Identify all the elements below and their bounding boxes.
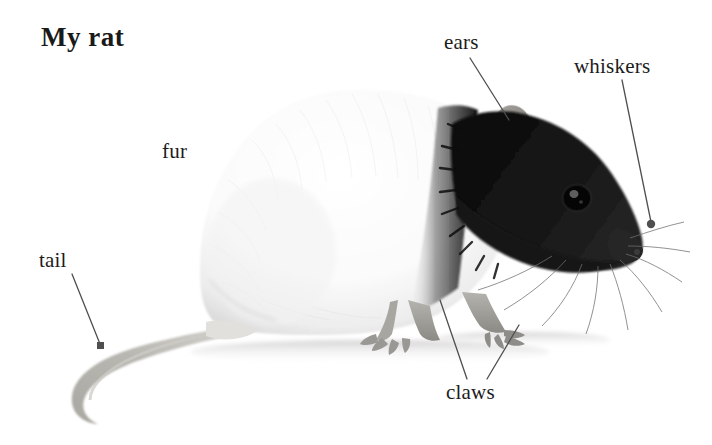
page-title: My rat	[41, 22, 124, 53]
rat-eye	[562, 184, 592, 212]
label-whiskers: whiskers	[574, 54, 650, 79]
label-fur: fur	[162, 139, 187, 164]
label-ears: ears	[444, 30, 479, 55]
label-tail: tail	[39, 248, 67, 273]
rat-diagram-page: My rat fur ears whiskers tail claws	[0, 0, 712, 445]
label-claws: claws	[446, 380, 495, 405]
